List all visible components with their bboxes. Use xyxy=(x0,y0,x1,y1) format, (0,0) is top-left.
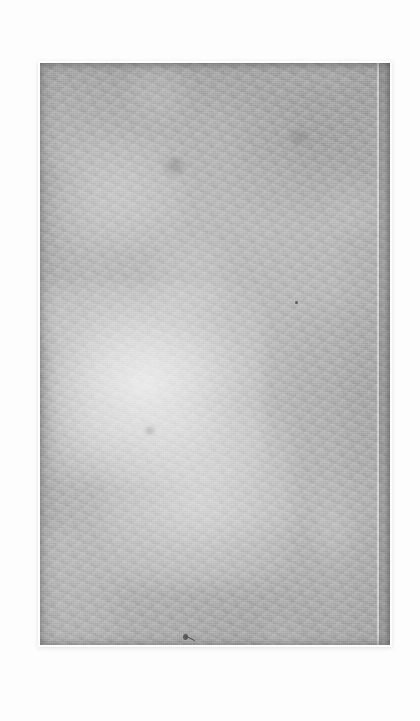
scanned-page-sheet xyxy=(40,63,390,645)
page-edge-shading xyxy=(40,63,390,645)
scan-viewport xyxy=(0,0,420,721)
